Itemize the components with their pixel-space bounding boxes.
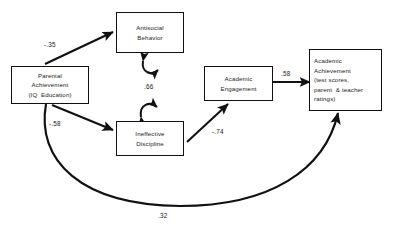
node-parental-achievement: Parental Achievement (IQ Education) [11, 66, 89, 104]
node-line: Achievement [32, 80, 69, 89]
node-line: Behavior [137, 33, 162, 42]
correlation-arc-upper [143, 61, 158, 73]
node-line: Achievement [314, 66, 351, 75]
coefficient-label-parental-to-achievement: .32 [158, 212, 167, 219]
coefficient-label-parental-to-discipline: -.58 [49, 120, 61, 127]
coefficient-label-parental-to-antisocial: -.35 [44, 41, 56, 48]
path-arrow-discipline-to-engagement [187, 104, 228, 142]
node-line: Antisocial [136, 23, 164, 32]
node-line: (test scores, [314, 75, 349, 84]
correlation-arc-lower [141, 104, 157, 117]
node-line: Parental [38, 71, 62, 80]
node-academic-achievement: Academic Achievement (test scores, paren… [309, 49, 382, 111]
path-diagram-canvas: Parental Achievement (IQ Education) Anti… [0, 0, 393, 234]
node-line: Ineffective [135, 129, 164, 138]
path-arrow-parental-to-discipline [52, 105, 113, 130]
node-ineffective-discipline: Ineffective Discipline [116, 121, 184, 156]
coefficient-label-engagement-to-achievement: .58 [281, 70, 290, 77]
node-line: (IQ Education) [28, 90, 71, 99]
node-line: Academic [314, 56, 342, 65]
node-line: ratings) [314, 94, 336, 103]
node-line: Academic [225, 74, 253, 83]
diagram-connectors [0, 0, 393, 234]
node-line: Discipline [136, 139, 164, 148]
node-academic-engagement: Academic Engagement [204, 66, 273, 101]
coefficient-label-antisocial-discipline-correlation: .66 [144, 83, 153, 90]
node-line: Engagement [220, 84, 256, 93]
path-arrow-parental-to-antisocial [45, 32, 113, 64]
node-line: parent & teacher [314, 85, 363, 94]
node-antisocial-behavior: Antisocial Behavior [116, 12, 184, 53]
coefficient-label-discipline-to-engagement: -.74 [212, 128, 224, 135]
